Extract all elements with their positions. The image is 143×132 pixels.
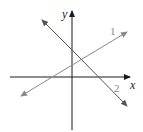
line-1-label: 1: [110, 25, 116, 37]
line-2: [80, 58, 127, 106]
line-2-label: 2: [114, 82, 120, 94]
line-1: [44, 32, 127, 82]
x-axis-label: x: [129, 78, 136, 92]
line-1: [21, 82, 44, 96]
y-axis-label: y: [61, 7, 68, 21]
line-2: [42, 20, 80, 58]
coordinate-diagram: y x 1 2: [0, 0, 143, 132]
